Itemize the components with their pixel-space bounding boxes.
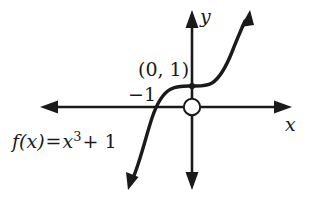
function-name: f — [12, 130, 19, 152]
x-axis-label: x — [285, 115, 296, 134]
graph-figure: y x (0, 1) −1 f(x)=x3+ 1 — [0, 0, 312, 204]
function-base-variable: x — [63, 130, 74, 152]
x-axis-right-arrowhead — [274, 101, 292, 114]
equals-sign: = — [45, 130, 63, 152]
x-intercept-label: −1 — [128, 85, 156, 104]
y-axis-label: y — [200, 7, 211, 26]
curve-lower-arrowhead — [126, 172, 139, 190]
function-constant-term: + 1 — [81, 130, 117, 152]
y-intercept-label: (0, 1) — [138, 60, 189, 79]
function-argument: (x) — [19, 130, 45, 152]
x-axis — [40, 101, 292, 114]
y-axis-bottom-arrowhead — [186, 172, 199, 190]
x-axis-left-arrowhead — [40, 101, 58, 114]
y-intercept-point-marker — [189, 83, 195, 89]
y-axis-top-arrowhead — [186, 10, 199, 28]
origin-open-circle-marker — [184, 99, 200, 115]
curve-upper-arrowhead — [241, 10, 255, 27]
function-equation-label: f(x)=x3+ 1 — [12, 132, 118, 151]
